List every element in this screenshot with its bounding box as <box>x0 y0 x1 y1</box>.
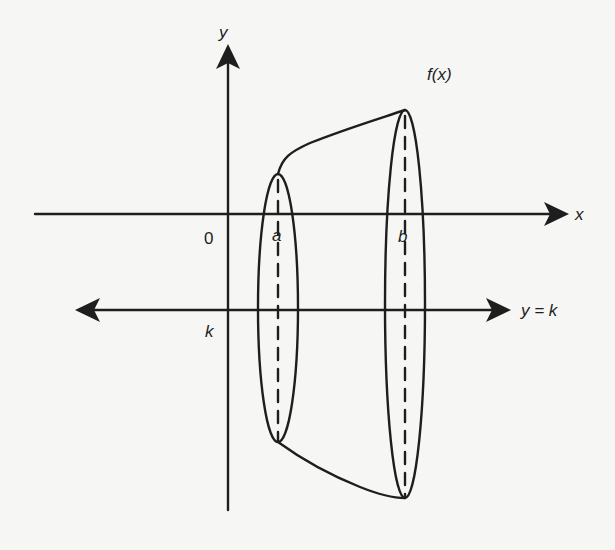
lower-curve <box>278 442 405 498</box>
solid-of-revolution-diagram <box>0 0 615 550</box>
a-label: a <box>272 227 281 244</box>
k-label: k <box>205 323 214 340</box>
x-axis-label: x <box>575 206 584 223</box>
function-label: f(x) <box>427 66 452 83</box>
upper-curve-fx <box>278 110 405 174</box>
rotation-line-label: y = k <box>521 302 557 319</box>
b-label: b <box>398 228 407 245</box>
y-axis-label: y <box>219 24 228 41</box>
origin-label: 0 <box>204 230 213 247</box>
